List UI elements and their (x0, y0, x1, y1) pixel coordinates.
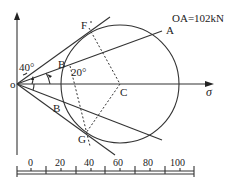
angle-40-label: 40° (19, 61, 34, 73)
point-b-upper-label: B (58, 58, 65, 70)
angle-20-label: 20° (71, 66, 86, 78)
scale-tick-60: 60 (113, 157, 123, 168)
point-f-label: F (81, 19, 87, 31)
line-oa (17, 31, 162, 84)
point-g-label: G (78, 133, 86, 145)
origin-label: o (10, 78, 16, 90)
angle-arc-lower (33, 84, 34, 90)
scale-tick-80: 80 (143, 157, 153, 168)
line-of (17, 17, 110, 84)
point-a-label: A (166, 24, 174, 36)
point-c-label: C (120, 86, 127, 98)
scale-bar (17, 166, 194, 177)
mohr-circle-diagram: o 40° F A B 20° C B G σ OA=102kN 0 20 40… (0, 0, 238, 193)
sigma-label: σ (206, 85, 213, 99)
scale-tick-100: 100 (170, 157, 185, 168)
line-og (17, 84, 115, 155)
oa-annotation: OA=102kN (172, 12, 224, 24)
angle-arc-40 (23, 73, 27, 75)
line-lower-1 (17, 84, 162, 140)
vertical-axis-arrow-icon (14, 12, 20, 20)
point-b-lower-label: B (53, 102, 60, 114)
scale-tick-20: 20 (55, 157, 65, 168)
scale-tick-0: 0 (28, 157, 33, 168)
scale-tick-40: 40 (84, 157, 94, 168)
dotted-cg (86, 84, 120, 133)
